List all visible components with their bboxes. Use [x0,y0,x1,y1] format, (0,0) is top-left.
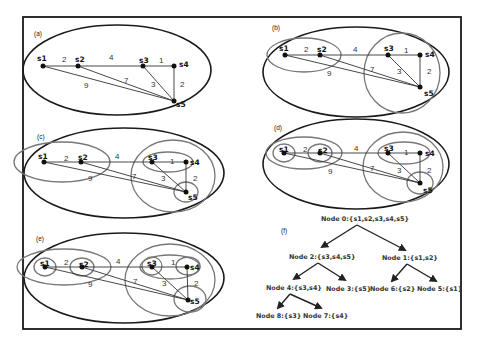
edge-weight: 9 [88,280,93,289]
edge-weight: 1 [170,157,175,166]
edge-weight: 2 [427,67,432,76]
tree-node-7: Node 7:{s4} [303,312,348,320]
node-label: s3 [384,44,394,53]
edge-weight: 9 [84,81,89,90]
edge-weight: 9 [328,167,333,176]
edge-weight: 1 [404,148,409,157]
edge-weight: 2 [304,45,309,54]
panel-c: (c) 2 4 1 2 3 7 9 s1 s2 s3 s4 s5 [14,128,224,218]
panel-a: (a) 2 4 1 2 3 7 9 s1 s2 s3 s4 s5 [23,25,211,115]
edge-weight: 2 [62,55,67,64]
edge-weight: 7 [124,76,129,85]
panel-label: (c) [37,133,45,141]
edge-weight: 3 [397,166,402,175]
tree-node-1: Node 1:{s1,s2} [382,254,438,262]
panel-b: (b) 2 4 1 2 3 7 9 s1 s2 s3 s4 s5 [263,24,449,117]
graph-node [386,53,391,58]
edge-weight: 2 [427,166,432,175]
tree-node-0: Node 0:{s1,s2,s3,s4,s5} [321,215,409,223]
edge-weight: 2 [303,145,308,154]
edge-weight: 3 [397,67,402,76]
tree-node-6: Node 6:{s2} [370,285,415,293]
node-label: s5 [424,89,434,98]
node-label: s3 [148,153,158,162]
graph-node [41,64,46,69]
panel-label: (b) [272,24,280,32]
edge-weight: 3 [162,279,167,288]
tree-node-4: Node 4:{s3,s4} [266,284,322,292]
edge-weight: 3 [161,174,166,183]
cluster-root-ellipse [24,233,224,323]
node-label: s5 [423,186,433,195]
edge-weight: 1 [171,258,176,267]
panel-e: (e) 2 4 1 2 3 7 9 s1 s2 s3 s4 s5 [17,233,224,323]
node-label: s4 [425,149,435,158]
panel-label: (e) [36,235,44,243]
node-label: s5 [188,193,198,202]
graph-node [283,53,288,58]
panel-label: (f) [281,227,287,235]
node-label: s4 [425,50,435,59]
edge-weight: 4 [109,53,114,62]
graph-node [185,265,190,270]
panel-d: (d) 2 4 1 2 3 7 9 s1 s2 s3 s4 s5 [263,119,449,209]
edge-weight: 2 [180,80,185,89]
tree-node-8: Node 8:{s3} [256,312,301,320]
node-label: s4 [190,263,200,272]
graph-node [172,64,177,69]
node-label: s3 [139,56,149,65]
node-label: s1 [38,152,48,161]
node-label: s3 [384,144,394,153]
edge-weight: 3 [151,80,156,89]
edge-weight: 4 [354,144,359,153]
node-label: s1 [37,54,47,63]
tree-node-2: Node 2:{s3,s4,s5} [289,253,356,261]
panel-f-tree: (f) Node 0:{s1,s2,s3,s4,s5} Node 2:{s3,s… [256,215,462,320]
graph-node [418,151,423,156]
edge-weight: 2 [64,258,69,267]
edge-weight: 2 [194,279,199,288]
edge-weight: 4 [115,152,120,161]
node-label: s4 [190,158,200,167]
edge-weight: 9 [327,69,332,78]
node-label: s4 [179,60,189,69]
edge-weight: 9 [88,174,93,183]
edge-weight: 1 [404,46,409,55]
edge-weight: 7 [370,65,375,74]
edge-weight: 7 [132,172,137,181]
edge-weight: 1 [159,56,164,65]
node-label: s2 [318,146,328,155]
tree-node-5: Node 5:{s1} [417,285,462,293]
cluster-root-ellipse [24,128,224,218]
edge-weight: 7 [370,164,375,173]
edge-weight: 2 [193,174,198,183]
graph-node [418,85,423,90]
node-label: s2 [317,45,327,54]
node-label: s2 [79,260,89,269]
panel-label: (a) [34,30,42,38]
node-label: s2 [75,55,85,64]
edge-weight: 4 [353,45,358,54]
graph-node [418,181,423,186]
tree-arrows [278,225,436,308]
tree-node-3: Node 3:{s5} [326,285,371,293]
cluster-s3-s4-s5 [131,140,215,212]
node-label: s1 [279,145,289,154]
edge-weight: 2 [64,154,69,163]
node-label: s5 [176,100,186,109]
node-label: s1 [40,259,50,268]
node-label: s1 [279,44,289,53]
node-label: s2 [78,153,88,162]
edge-weight: 7 [133,277,138,286]
graph-node [76,64,81,69]
node-label: s3 [147,259,157,268]
edge-weight: 4 [116,257,121,266]
graph-node [184,160,189,165]
panel-label: (d) [274,124,282,132]
hierarchical-clustering-figure: (a) 2 4 1 2 3 7 9 s1 s2 s3 s4 s5 (b) [0,0,481,344]
graph-node [418,53,423,58]
node-label: s5 [190,297,200,306]
